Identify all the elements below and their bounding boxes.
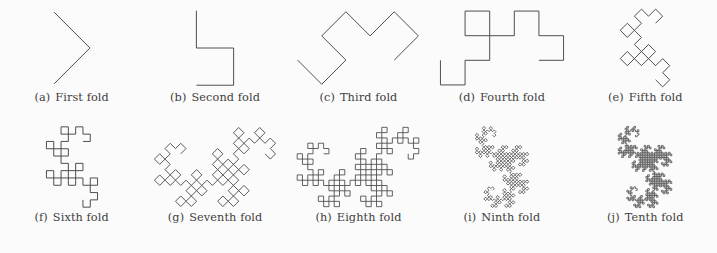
caption-tag-f: (f): [35, 211, 48, 224]
caption-tag-b: (b): [170, 91, 186, 104]
caption-tag-g: (g): [168, 211, 184, 224]
dragon-curve-9: [433, 125, 571, 209]
panel-tenth-fold: (j)Tenth fold: [574, 125, 717, 243]
caption-label-c: Third fold: [340, 91, 397, 104]
dragon-curve-6: [3, 125, 141, 209]
dragon-curve-svg: [146, 7, 284, 89]
dragon-curve-svg: [576, 125, 714, 209]
panel-fourth-fold: (d)Fourth fold: [430, 7, 573, 125]
dragon-curve-path: [440, 11, 563, 85]
caption-label-a: First fold: [55, 91, 109, 104]
caption-first-fold: (a)First fold: [34, 91, 108, 105]
caption-label-g: Seventh fold: [189, 211, 262, 224]
panel-second-fold: (b)Second fold: [143, 7, 286, 125]
caption-label-i: Ninth fold: [481, 211, 540, 224]
caption-seventh-fold: (g)Seventh fold: [168, 211, 263, 225]
dragon-curve-path: [618, 126, 672, 207]
dragon-curve-svg: [3, 125, 141, 209]
dragon-curve-path: [621, 9, 670, 87]
caption-tag-e: (e): [608, 91, 624, 104]
dragon-curve-path: [155, 128, 276, 207]
caption-tag-a: (a): [34, 91, 50, 104]
dragon-curve-svg: [576, 7, 714, 89]
dragon-curve-path: [46, 127, 97, 207]
panel-third-fold: (c)Third fold: [287, 7, 430, 125]
caption-sixth-fold: (f)Sixth fold: [35, 211, 109, 225]
dragon-curve-path: [54, 12, 90, 84]
panel-eighth-fold: (h)Eighth fold: [287, 125, 430, 243]
caption-third-fold: (c)Third fold: [320, 91, 398, 105]
dragon-curve-svg: [146, 125, 284, 209]
panel-ninth-fold: (i)Ninth fold: [430, 125, 573, 243]
figure-container: (a)First fold (b)Second fold (c)Third fo…: [0, 0, 717, 253]
dragon-curve-svg: [3, 7, 141, 89]
dragon-curve-7: [146, 125, 284, 209]
caption-label-f: Sixth fold: [53, 211, 109, 224]
dragon-curve-8: [289, 125, 427, 209]
dragon-curve-svg: [289, 125, 427, 209]
caption-label-d: Fourth fold: [480, 91, 545, 104]
dragon-curve-path: [298, 12, 419, 85]
caption-tag-h: (h): [315, 211, 331, 224]
caption-ninth-fold: (i)Ninth fold: [463, 211, 540, 225]
panel-fifth-fold: (e)Fifth fold: [574, 7, 717, 125]
dragon-curve-svg: [289, 7, 427, 89]
dragon-curve-5: [576, 7, 714, 89]
dragon-curve-path: [475, 126, 528, 207]
dragon-curve-2: [146, 7, 284, 89]
dragon-curve-svg: [433, 125, 571, 209]
caption-tenth-fold: (j)Tenth fold: [607, 211, 683, 225]
caption-tag-c: (c): [320, 91, 335, 104]
dragon-curve-3: [289, 7, 427, 89]
caption-fourth-fold: (d)Fourth fold: [459, 91, 545, 105]
caption-label-h: Eighth fold: [337, 211, 402, 224]
caption-eighth-fold: (h)Eighth fold: [315, 211, 401, 225]
dragon-curve-10: [576, 125, 714, 209]
caption-label-j: Tenth fold: [625, 211, 684, 224]
dragon-curve-svg: [433, 7, 571, 89]
caption-label-b: Second fold: [191, 91, 260, 104]
panel-sixth-fold: (f)Sixth fold: [0, 125, 143, 243]
caption-tag-d: (d): [459, 91, 475, 104]
dragon-curve-path: [298, 127, 420, 206]
caption-second-fold: (b)Second fold: [170, 91, 260, 105]
caption-tag-i: (i): [463, 211, 476, 224]
caption-fifth-fold: (e)Fifth fold: [608, 91, 683, 105]
dragon-curve-4: [433, 7, 571, 89]
panel-seventh-fold: (g)Seventh fold: [143, 125, 286, 243]
fold-panel-grid: (a)First fold (b)Second fold (c)Third fo…: [0, 0, 717, 253]
dragon-curve-path: [196, 11, 233, 85]
caption-tag-j: (j): [607, 211, 620, 224]
dragon-curve-1: [3, 7, 141, 89]
caption-label-e: Fifth fold: [629, 91, 683, 104]
panel-first-fold: (a)First fold: [0, 7, 143, 125]
